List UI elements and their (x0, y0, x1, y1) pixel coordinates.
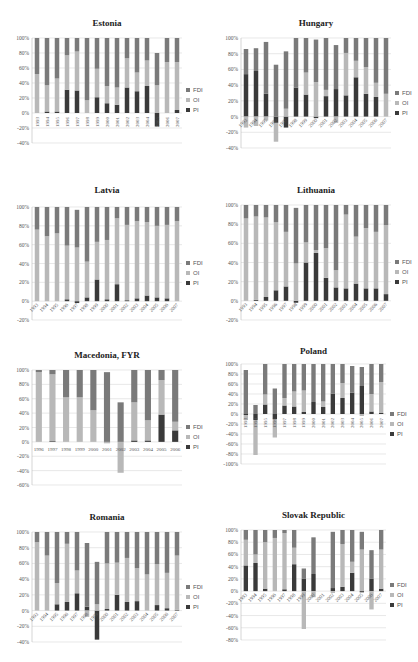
svg-text:1994: 1994 (45, 117, 50, 128)
bar-segment-fdi (125, 38, 130, 58)
svg-text:1993: 1993 (35, 117, 40, 128)
svg-text:-60%: -60% (226, 625, 238, 631)
bar-segment-fdi (314, 205, 319, 250)
svg-text:80%: 80% (228, 371, 239, 377)
bar-segment-pi (115, 284, 120, 301)
bar-segment-pi (384, 294, 389, 301)
svg-text:2007: 2007 (379, 418, 384, 429)
svg-text:2001: 2001 (115, 117, 120, 128)
chart-title: Latvia (22, 185, 192, 195)
svg-text:-40%: -40% (17, 140, 29, 146)
chart-title: Macedonia, FYR (22, 350, 192, 360)
svg-text:2006: 2006 (159, 302, 170, 313)
svg-text:1998: 1998 (288, 117, 299, 128)
svg-text:2001: 2001 (109, 611, 120, 622)
bar-segment-oi (360, 550, 364, 592)
bar-segment-oi (55, 233, 60, 301)
bar-segment-pi (105, 609, 110, 611)
bar-segment-fdi (65, 207, 70, 246)
bar-segment-fdi (115, 207, 120, 218)
bar-segment-fdi (35, 207, 40, 230)
bar-segment-fdi (95, 38, 100, 69)
svg-text:2001: 2001 (318, 302, 329, 313)
svg-text:40%: 40% (19, 410, 30, 416)
svg-text:40%: 40% (19, 80, 30, 86)
chart-legend: FDIOIPI (390, 409, 407, 439)
svg-text:2000: 2000 (88, 447, 99, 452)
svg-text:80%: 80% (19, 381, 30, 387)
bar-segment-fdi (264, 42, 269, 94)
bar-segment-pi (75, 91, 80, 114)
bar-segment-oi (135, 221, 140, 298)
svg-text:-20%: -20% (17, 317, 29, 323)
legend-item-oi: OI (186, 432, 203, 442)
bar-segment-pi (49, 441, 55, 442)
bar-segment-oi (85, 100, 90, 113)
legend-swatch (390, 593, 394, 597)
chart-title: Lithuania (231, 185, 401, 195)
bar-segment-oi (95, 604, 100, 610)
svg-text:1999: 1999 (89, 302, 100, 313)
svg-text:2007: 2007 (378, 117, 389, 128)
svg-text:20%: 20% (19, 95, 30, 101)
svg-text:100%: 100% (225, 35, 238, 41)
svg-text:2007: 2007 (169, 611, 180, 622)
svg-text:2006: 2006 (368, 302, 379, 313)
legend-item-oi: OI (390, 590, 407, 600)
bar-segment-oi (158, 380, 164, 415)
legend-item-pi: PI (186, 278, 203, 288)
bar-segment-fdi (294, 208, 299, 264)
bar-segment-oi (125, 225, 130, 300)
bar-segment-pi (324, 96, 329, 116)
bar-segment-pi (115, 595, 120, 611)
bar-segment-fdi (65, 38, 70, 55)
svg-text:2004: 2004 (344, 592, 355, 603)
bar-segment-fdi (145, 38, 150, 61)
svg-text:1993: 1993 (29, 302, 40, 313)
svg-text:100%: 100% (16, 35, 29, 41)
bar-segment-pi (379, 589, 383, 591)
bar-segment-oi (131, 402, 137, 440)
bar-segment-oi (145, 420, 151, 440)
bar-segment-oi (321, 402, 325, 408)
bar-segment-pi (135, 601, 140, 610)
bar-segment-pi (374, 97, 379, 117)
bar-segment-fdi (175, 532, 180, 556)
legend-item-oi: OI (395, 98, 412, 108)
bar-segment-fdi (253, 530, 257, 554)
bar-segment-pi (302, 579, 306, 591)
bar-segment-oi (344, 53, 349, 95)
legend-label: FDI (397, 411, 407, 417)
bar-segment-oi (90, 410, 96, 442)
chart-title: Estonia (22, 18, 192, 28)
legend-label: OI (193, 434, 199, 440)
bar-segment-oi (155, 226, 160, 298)
legend-swatch (186, 271, 190, 275)
legend-label: OI (402, 269, 408, 275)
bar-segment-fdi (35, 532, 40, 542)
bar-segment-pi (254, 71, 259, 117)
svg-text:1998: 1998 (85, 117, 90, 128)
svg-text:40%: 40% (19, 576, 30, 582)
bar-segment-fdi (263, 364, 267, 395)
legend-label: PI (193, 604, 199, 610)
bar-segment-fdi (125, 532, 130, 558)
bar-segment-pi (125, 602, 130, 611)
legend-item-fdi: FDI (186, 582, 203, 592)
legend-item-pi: PI (186, 105, 203, 115)
svg-text:2005: 2005 (157, 447, 168, 452)
legend-swatch (390, 583, 394, 587)
svg-text:1995: 1995 (263, 418, 268, 429)
svg-text:1997: 1997 (276, 592, 287, 603)
svg-text:100%: 100% (225, 527, 238, 533)
legend-swatch (390, 412, 394, 416)
bar-segment-fdi (292, 364, 296, 392)
bar-segment-oi (65, 246, 70, 300)
bar-segment-pi (65, 90, 70, 113)
svg-text:-20%: -20% (226, 600, 238, 606)
bar-segment-pi (304, 95, 309, 117)
bar-segment-fdi (302, 569, 306, 579)
bar-segment-oi (282, 533, 286, 589)
bar-segment-oi (104, 442, 110, 443)
legend-swatch (186, 281, 190, 285)
